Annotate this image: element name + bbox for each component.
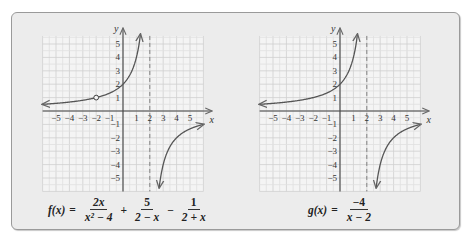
g-x-tick-label: 4	[391, 113, 396, 123]
formula-f-term-2-denominator: 2 − x	[132, 210, 162, 223]
g-y-tick-label: 4	[333, 52, 338, 62]
g-x-tick-label: 2	[365, 113, 370, 123]
f-y-tick-label: −4	[110, 160, 120, 170]
formula-f-plus: +	[120, 204, 127, 216]
g-x-tick-label: 3	[378, 113, 383, 123]
f-x-tick-label: 3	[161, 113, 166, 123]
formula-g-denominator: x − 2	[344, 210, 374, 223]
g-y-tick-label: −5	[327, 173, 337, 183]
f-x-tick-label: −4	[65, 113, 75, 123]
f-x-tick-label: −2	[91, 113, 101, 123]
f-x-tick-label: −5	[51, 113, 61, 123]
g-y-tick-label: 5	[333, 39, 338, 49]
g-y-tick-label: −4	[327, 160, 337, 170]
g-x-tick-label: −5	[268, 113, 278, 123]
formula-f: f(x) = 2x x² − 4 + 5 2 − x − 1 2 + x	[48, 196, 211, 223]
f-y-axis-label: y	[113, 23, 119, 34]
f-open-circle-hole	[94, 95, 99, 100]
f-x-tick-label: 1	[134, 113, 139, 123]
formula-f-term-1-denominator: x² − 4	[82, 210, 116, 223]
f-x-tick-label: 4	[174, 113, 179, 123]
g-x-tick-label: 5	[405, 113, 410, 123]
g-x-tick-label: −4	[282, 113, 292, 123]
formula-g-equals: =	[331, 204, 338, 216]
g-y-tick-label: −3	[327, 146, 337, 156]
g-x-tick-label: −3	[295, 113, 305, 123]
g-y-tick-label: −1	[327, 119, 337, 129]
g-y-tick-label: 1	[333, 93, 338, 103]
formula-f-term-3-numerator: 1	[188, 196, 200, 210]
formula-f-term-1: 2x x² − 4	[82, 196, 116, 223]
formula-f-term-1-numerator: 2x	[90, 196, 108, 210]
formula-f-term-3-denominator: 2 + x	[179, 210, 209, 223]
g-y-axis-label: y	[330, 23, 336, 34]
g-y-tick-label: −2	[327, 133, 337, 143]
formula-g-numerator: −4	[350, 196, 368, 210]
f-y-tick-label: −5	[110, 173, 120, 183]
formula-f-term-2: 5 2 − x	[132, 196, 162, 223]
f-x-tick-label: −3	[78, 113, 88, 123]
g-x-axis-label: x	[425, 114, 431, 125]
formula-g-lhs: g(x)	[308, 204, 327, 216]
formula-f-lhs: f(x)	[48, 204, 65, 216]
f-x-tick-label: 2	[148, 113, 153, 123]
f-y-tick-label: −2	[110, 133, 120, 143]
formula-g: g(x) = −4 x − 2	[308, 196, 376, 223]
g-x-tick-label: −2	[308, 113, 318, 123]
f-y-tick-label: −1	[110, 119, 120, 129]
formula-f-equals: =	[69, 204, 76, 216]
g-x-tick-label: 1	[351, 113, 356, 123]
f-x-axis-label: x	[208, 114, 214, 125]
f-y-tick-label: 1	[116, 93, 121, 103]
g-y-tick-label: 3	[333, 66, 338, 76]
f-y-tick-label: −3	[110, 146, 120, 156]
formula-f-term-3: 1 2 + x	[179, 196, 209, 223]
formula-g-term-1: −4 x − 2	[344, 196, 374, 223]
formula-f-term-2-numerator: 5	[141, 196, 153, 210]
f-y-tick-label: 4	[116, 52, 121, 62]
f-x-tick-label: 5	[188, 113, 193, 123]
f-y-tick-label: 3	[116, 66, 121, 76]
f-y-tick-label: 5	[116, 39, 121, 49]
formula-f-minus: −	[167, 204, 174, 216]
